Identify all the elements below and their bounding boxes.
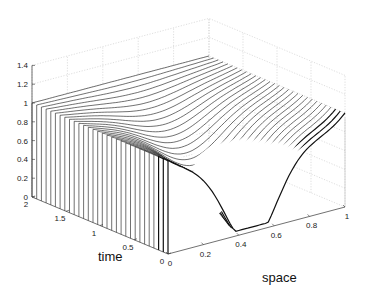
waterfall-plot: 00.20.40.60.811.21.400.511.5200.20.40.60… (0, 0, 377, 288)
waterfall-curves (32, 56, 345, 254)
svg-text:1: 1 (24, 99, 29, 108)
svg-text:0.5: 0.5 (122, 243, 134, 252)
svg-text:1.5: 1.5 (54, 214, 66, 223)
svg-text:0.8: 0.8 (306, 221, 318, 230)
svg-text:0: 0 (168, 259, 173, 268)
svg-text:0.6: 0.6 (17, 137, 29, 146)
svg-text:1.4: 1.4 (17, 61, 29, 70)
svg-text:0.8: 0.8 (17, 118, 29, 127)
svg-text:1.2: 1.2 (17, 80, 29, 89)
svg-text:0.4: 0.4 (235, 240, 247, 249)
svg-text:0: 0 (160, 257, 165, 266)
svg-text:0.4: 0.4 (17, 155, 29, 164)
svg-text:0.2: 0.2 (200, 250, 212, 259)
svg-text:2: 2 (24, 200, 29, 209)
svg-text:0.6: 0.6 (271, 231, 283, 240)
space-axis-label: space (262, 270, 297, 285)
svg-text:0.2: 0.2 (17, 174, 29, 183)
time-axis-label: time (98, 249, 123, 264)
svg-text:1: 1 (92, 229, 97, 238)
svg-text:1: 1 (345, 212, 350, 221)
